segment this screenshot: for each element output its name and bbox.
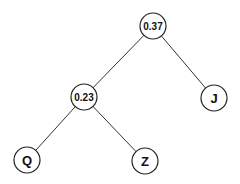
node-n1: 0.23 [71,84,97,110]
tree-diagram: 0.37 0.23 J Q Z [0,0,240,184]
node-root-label: 0.37 [143,21,163,32]
node-n1-label: 0.23 [74,92,94,103]
node-z: Z [132,148,158,174]
node-q: Q [14,147,40,173]
edges [27,26,214,161]
node-z-label: Z [141,154,149,169]
edge-root-n1 [84,26,153,97]
node-j: J [201,85,227,111]
node-root: 0.37 [140,13,166,39]
edge-root-j [153,26,214,98]
node-q-label: Q [22,153,32,168]
node-j-label: J [210,91,217,106]
